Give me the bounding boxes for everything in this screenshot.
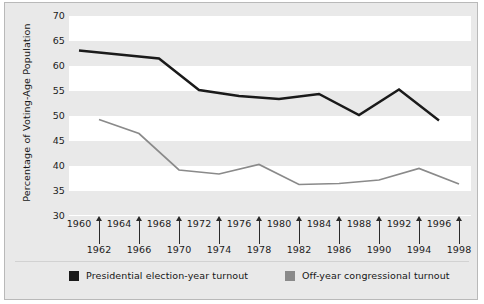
series-line-offyear — [99, 120, 459, 185]
x-tick-top-1960: 1960 — [62, 218, 96, 229]
x-tick-bottom-1978: 1978 — [242, 244, 276, 255]
y-tick-50: 50 — [39, 110, 65, 121]
x-tick-top-1972: 1972 — [182, 218, 216, 229]
x-tick-arrow-icon-1982 — [296, 216, 302, 221]
legend-item-offyear: Off-year congressional turnout — [285, 270, 450, 281]
x-tick-arrow-icon-1986 — [336, 216, 342, 221]
y-tick-45: 45 — [39, 135, 65, 146]
x-tick-stem-1966 — [139, 218, 140, 244]
x-tick-top-1964: 1964 — [102, 218, 136, 229]
legend-item-presidential: Presidential election-year turnout — [69, 270, 248, 281]
x-tick-stem-1994 — [419, 218, 420, 244]
legend-swatch-icon-0 — [69, 271, 79, 281]
x-tick-stem-1970 — [179, 218, 180, 244]
x-tick-top-1988: 1988 — [342, 218, 376, 229]
chart-legend: Presidential election-year turnoutOff-ye… — [69, 270, 459, 286]
y-axis-label: Percentage of Voting-Age Population — [21, 13, 32, 213]
x-tick-arrow-icon-1970 — [176, 216, 182, 221]
plot-area — [69, 16, 471, 216]
y-tick-40: 40 — [39, 160, 65, 171]
x-tick-arrow-icon-1978 — [256, 216, 262, 221]
y-axis-tick-labels: 706560555045403530 — [35, 16, 65, 216]
x-tick-top-1980: 1980 — [262, 218, 296, 229]
x-tick-stem-1974 — [219, 218, 220, 244]
x-tick-bottom-1994: 1994 — [402, 244, 436, 255]
x-tick-top-1992: 1992 — [382, 218, 416, 229]
x-tick-bottom-1974: 1974 — [202, 244, 236, 255]
x-tick-bottom-1986: 1986 — [322, 244, 356, 255]
x-tick-top-1996: 1996 — [422, 218, 456, 229]
x-tick-top-1984: 1984 — [302, 218, 336, 229]
chart-figure: 706560555045403530 Percentage of Voting-… — [4, 2, 478, 300]
x-tick-bottom-1990: 1990 — [362, 244, 396, 255]
x-tick-top-1968: 1968 — [142, 218, 176, 229]
x-tick-arrow-icon-1962 — [96, 216, 102, 221]
x-tick-top-1976: 1976 — [222, 218, 256, 229]
x-tick-stem-1990 — [379, 218, 380, 244]
x-tick-arrow-icon-1990 — [376, 216, 382, 221]
x-tick-bottom-1998: 1998 — [442, 244, 476, 255]
x-tick-stem-1986 — [339, 218, 340, 244]
x-tick-arrow-icon-1974 — [216, 216, 222, 221]
x-tick-bottom-1962: 1962 — [82, 244, 116, 255]
x-tick-bottom-1970: 1970 — [162, 244, 196, 255]
y-tick-70: 70 — [39, 10, 65, 21]
x-tick-arrow-icon-1994 — [416, 216, 422, 221]
x-axis-tick-labels: 1960196419681972197619801984198819921996… — [69, 216, 471, 262]
series-lines — [69, 16, 471, 216]
y-tick-65: 65 — [39, 35, 65, 46]
legend-label-1: Off-year congressional turnout — [302, 270, 450, 281]
y-tick-35: 35 — [39, 185, 65, 196]
y-tick-55: 55 — [39, 85, 65, 96]
x-tick-stem-1982 — [299, 218, 300, 244]
x-tick-stem-1962 — [99, 218, 100, 244]
x-tick-arrow-icon-1998 — [456, 216, 462, 221]
legend-label-0: Presidential election-year turnout — [86, 270, 248, 281]
legend-swatch-icon-1 — [285, 271, 295, 281]
legend-divider — [15, 261, 469, 262]
x-tick-bottom-1966: 1966 — [122, 244, 156, 255]
x-tick-bottom-1982: 1982 — [282, 244, 316, 255]
x-tick-stem-1978 — [259, 218, 260, 244]
x-tick-arrow-icon-1966 — [136, 216, 142, 221]
series-line-presidential — [79, 51, 439, 121]
y-tick-60: 60 — [39, 60, 65, 71]
x-tick-stem-1998 — [459, 218, 460, 244]
